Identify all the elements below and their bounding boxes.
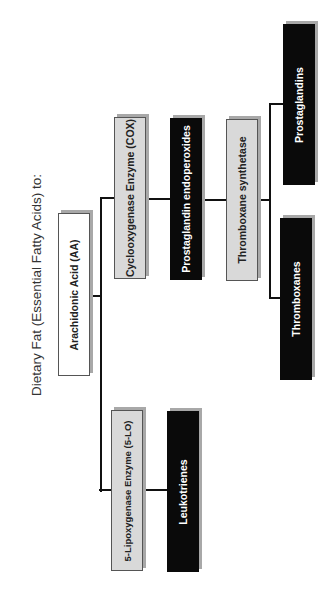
node-prostaglandins: Prostaglandins: [283, 24, 315, 185]
connector-ts-vertical: [269, 103, 271, 299]
node-label: Prostaglandins: [293, 67, 305, 143]
node-thromboxanes: Thromboxanes: [280, 218, 312, 380]
node-leukotrienes: Leukotrienes: [167, 411, 199, 572]
node-label: Leukotrienes: [177, 459, 189, 524]
node-label: Prostaglandin endoperoxides: [180, 125, 192, 273]
connector-aa-vertical: [100, 197, 102, 492]
node-label: Thromboxane synthetase: [236, 136, 248, 263]
node-prostaglandin-endoperoxides: Prostaglandin endoperoxides: [170, 118, 202, 280]
node-cox: Cyclooxygenase Enzyme (COX): [114, 117, 146, 279]
node-arachidonic-acid: Arachidonic Acid (AA): [58, 213, 90, 376]
node-label: Cyclooxygenase Enzyme (COX): [124, 119, 136, 277]
connector-pe-to-ts: [202, 199, 226, 201]
connector-to-5lo: [99, 489, 111, 491]
node-label: Arachidonic Acid (AA): [68, 239, 80, 350]
connector-cox-to-pe: [146, 198, 170, 200]
node-5-lipoxygenase: 5-Lipoxygenase Enzyme (5-LO): [111, 410, 143, 571]
node-label: 5-Lipoxygenase Enzyme (5-LO): [122, 420, 133, 561]
node-thromboxane-synthetase: Thromboxane synthetase: [226, 119, 258, 281]
connector-to-prostaglandins: [269, 103, 283, 105]
diagram-title: Dietary Fat (Essential Fatty Acids) to:: [29, 174, 44, 396]
connector-to-cox: [100, 197, 114, 199]
node-label: Thromboxanes: [290, 261, 302, 336]
connector-5lo-to-leukotrienes: [143, 489, 167, 491]
